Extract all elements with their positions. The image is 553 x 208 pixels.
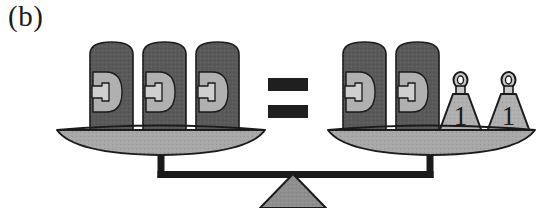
right-pan-group: 1 1 [328,42,535,155]
right-weight-1: 1 [439,72,482,132]
balance-scale-illustration: 1 1 [0,0,553,208]
left-pan-group [57,42,265,155]
fulcrum [260,174,326,208]
right-pan-dish [328,126,535,156]
balance-scale-figure: (b) [0,0,553,208]
left-object-1 [90,42,133,130]
left-object-3 [196,42,239,130]
weight-value-2: 1 [502,101,516,131]
left-pan-dish [57,126,265,156]
right-object-1 [343,42,386,130]
equals-sign [268,78,308,118]
equals-bar-top [268,78,308,91]
right-object-2 [396,42,439,130]
right-weight-2: 1 [487,72,530,132]
left-object-2 [143,42,186,130]
equals-bar-bottom [268,105,308,118]
